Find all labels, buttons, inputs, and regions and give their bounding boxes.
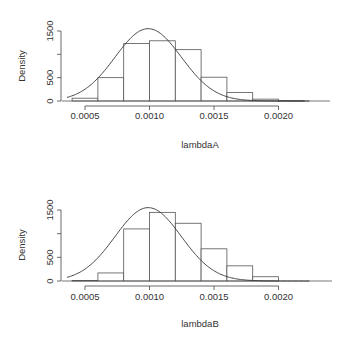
x-tick-label: 0.0010 [135,291,164,302]
x-axis-title: lambdaA [181,139,219,150]
y-tick-label: 500 [44,70,55,86]
histogram-panel-lambdaA: 05001500Density0.00050.00100.00150.0020l… [16,20,330,150]
y-tick-label: 1500 [44,20,55,41]
histogram-panel-lambdaB: 05001500Density0.00050.00100.00150.0020l… [16,199,332,329]
histogram-bar [72,98,98,101]
y-tick-label: 0 [44,98,55,103]
histogram-bar [150,212,176,281]
histogram-bar [201,77,227,101]
x-axis-title: lambdaB [181,318,219,329]
x-axis: 0.00050.00100.00150.0020lambdaB [70,286,293,329]
histogram-bar [175,50,201,101]
x-tick-label: 0.0005 [70,110,99,121]
histogram-bar [124,229,150,281]
y-axis: 05001500Density [16,20,61,103]
y-axis-title: Density [16,229,27,261]
x-axis: 0.00050.00100.00150.0020lambdaA [70,106,293,150]
histogram-bars [72,212,278,281]
histogram-bar [98,273,124,281]
x-tick-label: 0.0010 [135,110,164,121]
histogram-bar [124,44,150,101]
histogram-bar [227,266,253,281]
histogram-bar [201,249,227,281]
histogram-bar [98,78,124,101]
y-tick-label: 1500 [44,199,55,220]
histogram-bar [175,223,201,281]
y-tick-label: 500 [44,249,55,265]
y-axis: 05001500Density [16,199,61,283]
x-tick-label: 0.0015 [199,291,228,302]
y-tick-label: 0 [44,278,55,283]
x-tick-label: 0.0005 [70,291,99,302]
histogram-bars [72,41,304,101]
x-tick-label: 0.0020 [264,291,293,302]
histogram-bar [150,41,176,101]
y-axis-title: Density [16,50,27,82]
x-tick-label: 0.0020 [264,110,293,121]
x-tick-label: 0.0015 [199,110,228,121]
histogram-figure: 05001500Density0.00050.00100.00150.0020l… [0,0,353,346]
